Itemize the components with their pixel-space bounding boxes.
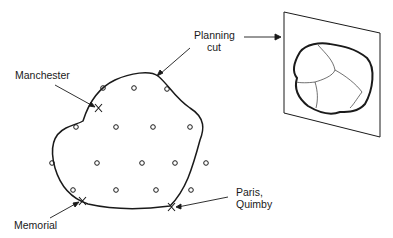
cross-markers xyxy=(79,104,175,211)
memorial-label: Memorial xyxy=(14,219,57,231)
memorial-leader xyxy=(50,203,77,218)
paris-label: Paris, xyxy=(236,186,263,198)
paris-leader xyxy=(178,197,228,207)
facility-points xyxy=(50,86,209,193)
planning-cut-label: Planning xyxy=(194,29,235,41)
manchester-label: Manchester xyxy=(15,69,70,81)
quimby-label: Quimby xyxy=(236,198,273,210)
planning-cut-label-2: cut xyxy=(207,41,221,53)
planning-cut-leader xyxy=(160,48,190,74)
planning-cut-diagram: Planning cut Manchester Memorial Paris, … xyxy=(0,0,393,238)
manchester-leader xyxy=(55,85,93,106)
